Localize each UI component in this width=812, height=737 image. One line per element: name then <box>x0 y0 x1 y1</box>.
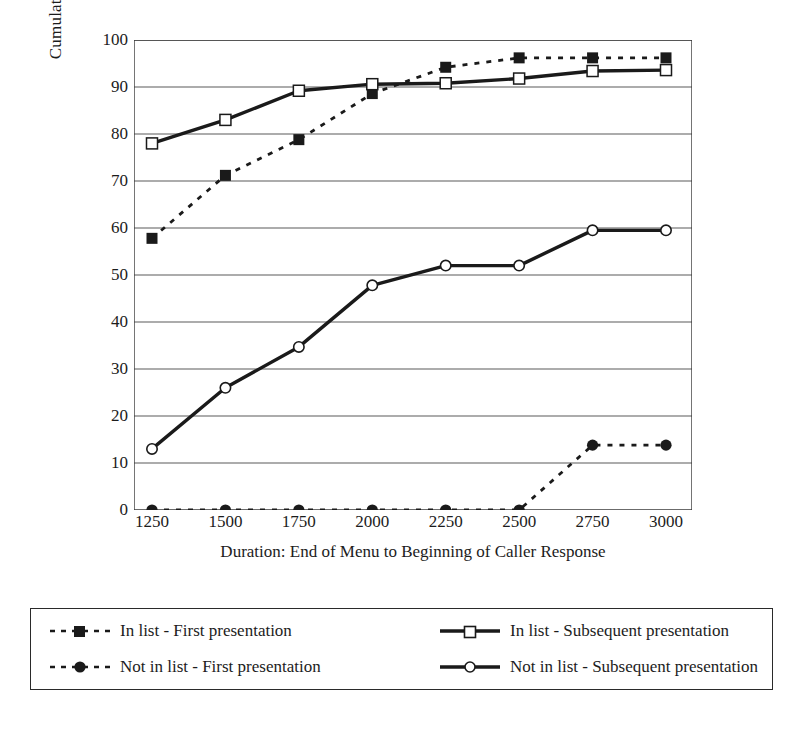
chart-figure: Cumulative Percentage 010203040506070809… <box>0 0 812 737</box>
data-point-marker <box>587 440 598 451</box>
data-point-marker <box>514 260 524 270</box>
data-point-marker <box>220 170 231 181</box>
data-point-marker <box>367 79 378 90</box>
y-tick-label: 70 <box>111 171 128 191</box>
x-axis-tick-labels: 12501500175020002250250027503000 <box>134 512 692 538</box>
legend-key-open-square-solid <box>439 622 501 640</box>
data-point-marker <box>661 52 672 63</box>
legend-grid: In list - First presentation In list - S… <box>31 609 772 689</box>
plot-svg <box>134 40 692 510</box>
data-point-marker <box>220 114 231 125</box>
data-point-marker <box>661 65 672 76</box>
data-point-marker <box>294 342 304 352</box>
data-point-marker <box>367 504 378 510</box>
data-point-marker <box>587 225 597 235</box>
data-point-marker <box>661 225 671 235</box>
y-axis-tick-labels: 0102030405060708090100 <box>84 40 128 510</box>
legend-item-in-list-first: In list - First presentation <box>49 621 439 641</box>
data-point-marker <box>293 85 304 96</box>
data-point-marker <box>660 440 671 451</box>
data-point-marker <box>440 62 451 73</box>
legend-key-filled-square-dashed <box>49 622 111 640</box>
y-tick-label: 90 <box>111 77 128 97</box>
y-tick-label: 40 <box>111 312 128 332</box>
x-tick-label: 1750 <box>282 512 316 532</box>
x-tick-label: 2500 <box>502 512 536 532</box>
series-line <box>152 445 666 510</box>
y-axis-title: Cumulative Percentage <box>46 0 68 128</box>
legend-label: Not in list - First presentation <box>120 657 321 677</box>
data-point-marker <box>440 504 451 510</box>
data-point-marker <box>514 73 525 84</box>
legend: In list - First presentation In list - S… <box>30 608 773 690</box>
data-point-marker <box>220 504 231 510</box>
data-point-marker <box>514 52 525 63</box>
data-point-marker <box>146 504 157 510</box>
y-tick-label: 30 <box>111 359 128 379</box>
y-tick-label: 60 <box>111 218 128 238</box>
y-tick-label: 80 <box>111 124 128 144</box>
legend-item-not-in-list-subsequent: Not in list - Subsequent presentation <box>439 657 772 677</box>
y-axis-title-text: Cumulative Percentage <box>46 0 66 128</box>
x-tick-label: 3000 <box>649 512 683 532</box>
y-tick-label: 50 <box>111 265 128 285</box>
plot-area <box>134 40 692 510</box>
legend-key-filled-circle-dashed <box>49 658 111 676</box>
data-point-marker <box>293 134 304 145</box>
data-point-marker <box>147 138 158 149</box>
x-tick-label: 2000 <box>355 512 389 532</box>
legend-item-not-in-list-first: Not in list - First presentation <box>49 657 439 677</box>
data-point-marker <box>293 504 304 510</box>
y-tick-label: 10 <box>111 453 128 473</box>
x-axis-title: Duration: End of Menu to Beginning of Ca… <box>134 540 692 563</box>
data-point-marker <box>587 66 598 77</box>
y-tick-label: 0 <box>120 500 129 520</box>
data-point-marker <box>441 260 451 270</box>
data-point-marker <box>440 78 451 89</box>
y-tick-label: 100 <box>103 30 129 50</box>
y-tick-label: 20 <box>111 406 128 426</box>
x-tick-label: 2250 <box>429 512 463 532</box>
x-tick-label: 1500 <box>208 512 242 532</box>
legend-label: In list - First presentation <box>120 621 292 641</box>
data-point-marker <box>147 444 157 454</box>
data-point-marker <box>587 52 598 63</box>
legend-label: Not in list - Subsequent presentation <box>510 657 758 677</box>
legend-label: In list - Subsequent presentation <box>510 621 729 641</box>
data-point-marker <box>147 233 158 244</box>
x-tick-label: 1250 <box>135 512 169 532</box>
legend-key-open-circle-solid <box>439 658 501 676</box>
legend-item-in-list-subsequent: In list - Subsequent presentation <box>439 621 772 641</box>
x-tick-label: 2750 <box>576 512 610 532</box>
data-point-marker <box>367 280 377 290</box>
data-point-marker <box>220 383 230 393</box>
